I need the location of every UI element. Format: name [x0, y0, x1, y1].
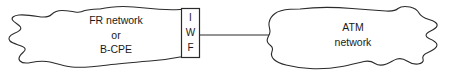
fr-network-label-line3: B-CPE	[100, 43, 132, 55]
iwf-letter-w: W	[186, 27, 196, 38]
network-diagram: FR network or B-CPE I W F ATM network	[0, 0, 462, 80]
atm-network-label-line2: network	[335, 36, 373, 48]
fr-network-label-line1: FR network	[89, 14, 143, 26]
iwf-letter-i: I	[189, 12, 192, 23]
iwf-letter-f: F	[187, 42, 193, 53]
atm-network-label-line1: ATM	[342, 21, 363, 33]
fr-network-label-line2: or	[111, 29, 121, 41]
diagram-canvas: FR network or B-CPE I W F ATM network	[0, 0, 462, 80]
